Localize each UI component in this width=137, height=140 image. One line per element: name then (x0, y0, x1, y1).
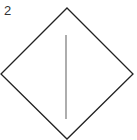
diamond-shape (1, 8, 133, 139)
diamond-diagram (0, 0, 137, 140)
